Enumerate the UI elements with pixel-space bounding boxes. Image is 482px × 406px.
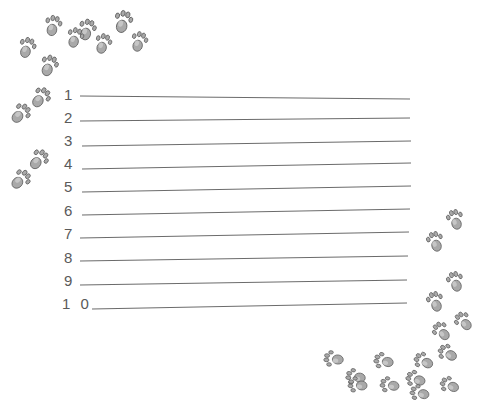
line-number-8: 8 bbox=[64, 250, 75, 266]
paw-print-icon bbox=[345, 374, 369, 395]
writing-rule-line bbox=[92, 303, 407, 309]
writing-rule-line bbox=[80, 280, 407, 285]
writing-rule-line bbox=[80, 96, 410, 99]
writing-rule-line bbox=[80, 118, 410, 121]
writing-rule-line bbox=[80, 232, 409, 238]
line-number-7: 7 bbox=[64, 226, 75, 242]
paw-print-icon bbox=[376, 374, 401, 397]
line-number-2: 2 bbox=[64, 110, 75, 126]
line-number-1: 1 bbox=[64, 87, 75, 103]
line-number-6: 6 bbox=[64, 203, 75, 219]
writing-rule-line bbox=[80, 256, 408, 261]
line-number-10: 1 0 bbox=[62, 296, 92, 312]
writing-rule-line bbox=[82, 186, 411, 192]
line-number-3: 3 bbox=[64, 133, 75, 149]
paw-print-icon bbox=[321, 348, 346, 370]
line-number-5: 5 bbox=[64, 179, 75, 195]
line-number-9: 9 bbox=[64, 273, 75, 289]
worksheet-page: 1234567891 0 bbox=[0, 0, 482, 406]
writing-rule-line bbox=[82, 163, 411, 169]
writing-lines-area: 1234567891 0 bbox=[0, 0, 482, 406]
writing-rule-line bbox=[82, 209, 410, 215]
line-number-4: 4 bbox=[64, 156, 75, 172]
writing-rule-line bbox=[82, 141, 411, 146]
